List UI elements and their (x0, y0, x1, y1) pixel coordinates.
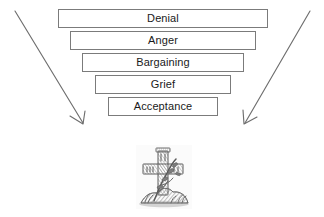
cross-monument-graphic (128, 141, 200, 213)
stone-cross-engraving-icon (128, 141, 200, 213)
stage-box-anger[interactable]: Anger (70, 31, 256, 50)
stage-box-acceptance[interactable]: Acceptance (108, 97, 218, 116)
stage-label-anger: Anger (148, 35, 178, 46)
stage-label-denial: Denial (147, 13, 179, 24)
stage-box-bargaining[interactable]: Bargaining (82, 53, 244, 72)
stage-label-grief: Grief (151, 79, 175, 90)
stage-label-bargaining: Bargaining (136, 57, 190, 68)
stage-box-denial[interactable]: Denial (58, 9, 268, 28)
grief-stages-diagram: Denial Anger Bargaining Grief Acceptance (0, 0, 324, 217)
stage-label-acceptance: Acceptance (134, 101, 192, 112)
stage-box-grief[interactable]: Grief (95, 75, 231, 94)
